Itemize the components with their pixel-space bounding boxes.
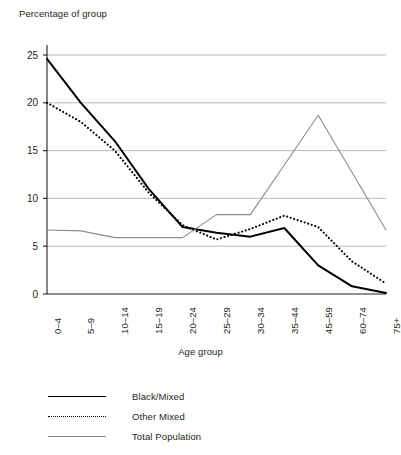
svg-text:5: 5 bbox=[32, 241, 38, 252]
legend-item: Other Mixed bbox=[48, 406, 368, 426]
svg-text:15: 15 bbox=[27, 145, 39, 156]
legend-item: Black/Mixed bbox=[48, 386, 368, 406]
legend-swatch-dotted-line-icon bbox=[48, 410, 106, 422]
series-line bbox=[47, 103, 386, 284]
legend-item-label: Black/Mixed bbox=[132, 391, 184, 402]
chart-container: Percentage of group 0510152025 0–45–910–… bbox=[0, 0, 401, 455]
data-series-layer bbox=[47, 59, 386, 293]
svg-text:25: 25 bbox=[27, 50, 39, 61]
gridlines bbox=[47, 55, 386, 246]
y-tick-labels: 0510152025 bbox=[27, 50, 39, 300]
legend-item-label: Other Mixed bbox=[132, 411, 185, 422]
legend-swatch-thin-line-icon bbox=[48, 430, 106, 442]
chart-axes bbox=[47, 45, 386, 294]
y-tick-marks bbox=[43, 55, 47, 294]
legend-item: Total Population bbox=[48, 426, 368, 446]
series-line bbox=[47, 115, 386, 237]
legend-swatch-solid-line-icon bbox=[48, 390, 106, 402]
svg-text:10: 10 bbox=[27, 193, 39, 204]
chart-legend: Black/Mixed Other Mixed Total Population bbox=[48, 386, 368, 446]
svg-text:0: 0 bbox=[32, 289, 38, 300]
x-axis-title: Age group bbox=[0, 346, 401, 357]
svg-text:20: 20 bbox=[27, 97, 39, 108]
legend-item-label: Total Population bbox=[132, 431, 201, 442]
series-line bbox=[47, 59, 386, 293]
